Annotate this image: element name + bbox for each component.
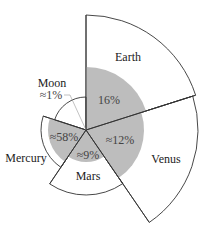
pct-earth: 16%: [98, 93, 120, 107]
pct-mars: ≈9%: [77, 148, 100, 162]
label-venus: Venus: [151, 152, 181, 166]
pct-mercury: ≈58%: [50, 130, 79, 144]
sectors: [41, 15, 198, 222]
polar-area-diagram: Earth 16% Venus ≈12% Mars ≈9% Mercury ≈5…: [0, 0, 206, 230]
label-mercury: Mercury: [5, 151, 46, 165]
label-earth: Earth: [115, 50, 141, 64]
label-mars: Mars: [76, 169, 101, 183]
pct-moon: ≈1%: [40, 88, 63, 102]
pct-venus: ≈12%: [106, 133, 135, 147]
